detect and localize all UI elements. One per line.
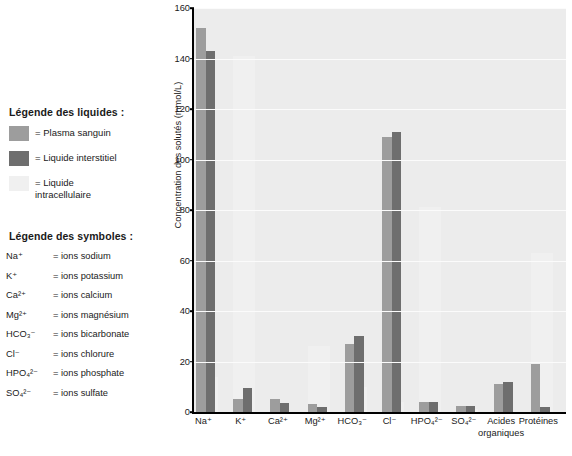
symbol-legend-item: Na⁺= ions sodium (6, 250, 151, 261)
bar-interstitial (429, 402, 439, 412)
y-axis-tick-label: 140 (174, 54, 190, 64)
symbol-legend-key: Ca²⁺ (6, 289, 53, 300)
x-axis-tick-label: SO₄²⁻ (451, 416, 476, 428)
symbol-legend-key: Na⁺ (6, 250, 53, 261)
legend-item-label: = Plasma sanguin (35, 126, 111, 139)
symbol-legend-item: SO₄²⁻= ions sulfate (6, 387, 151, 398)
gridline (194, 59, 566, 60)
gridline (194, 311, 566, 312)
y-axis-tick-label: 120 (174, 104, 190, 114)
y-axis-tick-mark (190, 209, 194, 211)
liquid-legend-item: = Liquide interstitiel (9, 151, 149, 166)
gridline (194, 362, 566, 363)
bar-intracellular (419, 207, 441, 412)
y-axis-tick-mark (190, 159, 194, 161)
y-axis-tick-mark (190, 7, 194, 9)
bar-interstitial (243, 388, 253, 412)
symbol-legend-item: Mg²⁺= ions magnésium (6, 309, 151, 320)
symbol-legend-value: = ions potassium (53, 271, 123, 281)
liquids-legend-list: = Plasma sanguin= Liquide interstitiel= … (9, 126, 149, 210)
bar-plasma (308, 404, 318, 412)
plot-area: 020406080100120140160 (192, 8, 566, 414)
legend-item-label: = Liquideintracellulaire (35, 176, 91, 200)
bar-interstitial (280, 403, 290, 412)
bar-plasma (270, 399, 280, 412)
gridline (194, 8, 566, 9)
symbol-legend-value: = ions sodium (53, 251, 111, 261)
x-axis-tick-label: Na⁺ (195, 416, 212, 428)
symbol-legend-value: = ions calcium (53, 290, 112, 300)
symbol-legend-key: SO₄²⁻ (6, 387, 53, 398)
figure-root: Légende des liquides : = Plasma sanguin=… (0, 0, 572, 456)
x-axis-tick-label: K⁺ (235, 416, 246, 428)
bar-plasma (345, 344, 355, 412)
symbol-legend-value: = ions chlorure (53, 349, 114, 359)
y-axis-tick-mark (190, 411, 194, 413)
y-axis-tick-mark (190, 260, 194, 262)
y-axis-tick-mark (190, 361, 194, 363)
bar-plasma (494, 384, 504, 412)
legend-color-swatch (9, 126, 29, 141)
bar-interstitial (503, 382, 513, 412)
y-axis-tick-label: 60 (180, 256, 190, 266)
bar-interstitial (466, 406, 476, 412)
liquid-legend-item: = Liquideintracellulaire (9, 176, 149, 200)
bar-interstitial (392, 132, 402, 412)
bar-interstitial (317, 407, 327, 412)
y-axis-tick-mark (190, 108, 194, 110)
x-axis-tick-label: Acidesorganiques (478, 416, 524, 439)
bar-plasma (456, 406, 466, 412)
y-axis-tick-mark (190, 310, 194, 312)
symbol-legend-value: = ions magnésium (53, 310, 129, 320)
gridline (194, 160, 566, 161)
x-axis-tick-label: Ca²⁺ (268, 416, 288, 428)
symbol-legend-key: K⁺ (6, 270, 53, 281)
legend-item-label: = Liquide interstitiel (35, 151, 117, 164)
y-axis-tick-label: 80 (180, 205, 190, 215)
legend-color-swatch (9, 151, 29, 166)
gridline (194, 109, 566, 110)
symbol-legend-item: Cl⁻= ions chlorure (6, 348, 151, 359)
symbol-legend-value: = ions phosphate (53, 368, 124, 378)
chart-area: Concentration des solutés (mmol/L) 02040… (150, 0, 572, 456)
bar-interstitial (540, 407, 550, 412)
x-axis-tick-label: HCO₃⁻ (338, 416, 367, 428)
y-axis-tick-label: 160 (174, 3, 190, 13)
bar-plasma (196, 28, 206, 412)
gridline (194, 210, 566, 211)
x-axis-tick-label: Cl⁻ (383, 416, 397, 428)
symbol-legend-value: = ions bicarbonate (53, 329, 129, 339)
x-axis-tick-label: Protéines (519, 416, 558, 428)
bar-intracellular (308, 346, 330, 412)
symbol-legend-key: Cl⁻ (6, 348, 53, 359)
symbols-legend-list: Na⁺= ions sodiumK⁺= ions potassiumCa²⁺= … (6, 250, 151, 406)
x-axis-tick-label: HPO₄²⁻ (411, 416, 443, 428)
legend-panel: Légende des liquides : = Plasma sanguin=… (0, 0, 150, 456)
bar-interstitial (206, 51, 216, 412)
bar-plasma (419, 402, 429, 412)
legend-color-swatch (9, 176, 29, 191)
x-axis-tick-label: Mg²⁺ (305, 416, 326, 428)
bar-plasma (233, 399, 243, 412)
y-axis-tick-label: 20 (180, 357, 190, 367)
symbols-legend-title: Légende des symboles : (9, 230, 133, 242)
symbol-legend-item: K⁺= ions potassium (6, 270, 151, 281)
bar-interstitial (354, 336, 364, 412)
bar-plasma (531, 364, 541, 412)
y-axis-tick-label: 40 (180, 306, 190, 316)
liquid-legend-item: = Plasma sanguin (9, 126, 149, 141)
bar-plasma (382, 137, 392, 412)
symbol-legend-key: HPO₄²⁻ (6, 367, 53, 378)
x-axis-labels: Na⁺K⁺Ca²⁺Mg²⁺HCO₃⁻Cl⁻HPO₄²⁻SO₄²⁻Acidesor… (192, 416, 564, 456)
gridline (194, 261, 566, 262)
symbol-legend-value: = ions sulfate (53, 388, 108, 398)
symbol-legend-item: HCO₃⁻= ions bicarbonate (6, 328, 151, 339)
liquids-legend-title: Légende des liquides : (9, 106, 124, 118)
y-axis-tick-mark (190, 58, 194, 60)
y-axis-tick-label: 100 (174, 155, 190, 165)
symbol-legend-item: Ca²⁺= ions calcium (6, 289, 151, 300)
symbol-legend-key: HCO₃⁻ (6, 328, 53, 339)
symbol-legend-key: Mg²⁺ (6, 309, 53, 320)
symbol-legend-item: HPO₄²⁻= ions phosphate (6, 367, 151, 378)
